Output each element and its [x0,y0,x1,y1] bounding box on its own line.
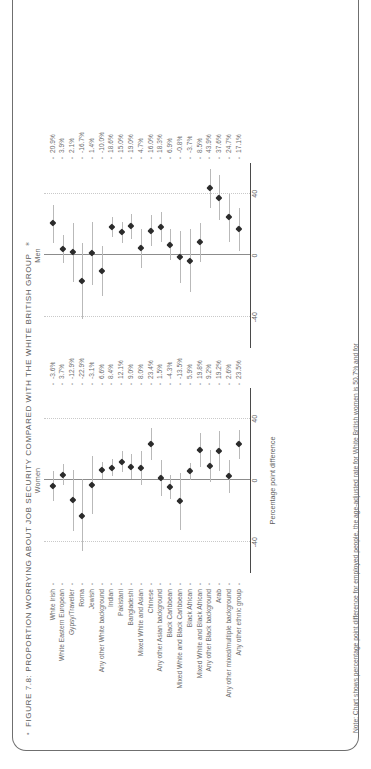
value-label-text: 6.6% [98,364,105,379]
value-leader-dot-icon: • [177,157,183,159]
panel-men: Men -40040 [44,163,280,348]
category-label: Any other Asian background• [157,583,164,672]
value-label-text: -12.9% [68,358,75,379]
value-label: •19.2% [216,360,223,385]
category-leader-dot-icon: • [167,583,173,585]
category-label-column: White Irish•White Eastern European•Gypsy… [44,583,280,733]
category-label-text: Chinese [147,589,154,613]
value-label-text: 43.9% [205,134,212,153]
title-trailing-star-icon: ✶ [24,240,31,247]
value-label-text: 4.7% [137,138,144,153]
category-leader-dot-icon: • [99,583,105,585]
category-label-text: White Eastern European [58,589,65,661]
value-label: •9.2% [206,364,213,385]
value-label-text: 8.0% [137,364,144,379]
value-leader-dot-icon: • [216,383,222,385]
category-label-text: Arab [215,589,222,603]
data-point-marker [186,258,193,265]
title-leading-bullet-icon: • [24,732,31,735]
data-point-marker [108,464,115,471]
data-point-marker [118,458,125,465]
value-leader-dot-icon: • [138,157,144,159]
value-leader-dot-icon: • [226,157,232,159]
category-label-text: Indian [107,589,114,607]
value-leader-dot-icon: • [216,157,222,159]
value-label-text: 9.2% [205,364,212,379]
x-gridline [44,541,250,542]
x-axis-title-women: Percentage point difference [268,388,277,573]
value-label: •37.6% [216,134,223,159]
data-point-marker [167,241,174,248]
value-label: •8.4% [108,364,115,385]
data-point-marker [206,463,213,470]
category-label-text: Mixed White and Black Caribbean [176,589,183,688]
category-label-text: Mixed White and Black African [196,589,203,678]
value-leader-dot-icon: • [108,383,114,385]
value-label-text: 5.9% [186,364,193,379]
category-label-text: Pakistani [117,589,124,616]
category-label-text: Any other ethnic group [235,589,242,655]
category-label-text: Gypsy/Traveller [68,589,75,635]
category-label: Any other Black background• [206,583,213,672]
value-label: •-10.0% [99,132,106,159]
value-column-men: •20.9%•3.9%•2.1%•-16.7%•1.4%•-10.0%•18.6… [44,117,280,159]
x-gridline [44,418,250,419]
category-leader-dot-icon: • [108,583,114,585]
category-leader-dot-icon: • [226,583,232,585]
category-leader-dot-icon: • [118,583,124,585]
data-point-marker [49,482,56,489]
plot-women [44,388,250,573]
category-label-text: Any other mixed/multiple background [225,589,232,698]
value-label-text: 15.0% [117,134,124,153]
category-leader-dot-icon: • [138,583,144,585]
category-label: White Eastern European• [59,583,66,661]
value-label-text: 8.5% [196,138,203,153]
value-label: •16.0% [148,134,155,159]
value-leader-dot-icon: • [89,383,95,385]
value-leader-dot-icon: • [138,383,144,385]
data-point-marker [98,467,105,474]
value-leader-dot-icon: • [177,383,183,385]
value-leader-dot-icon: • [69,157,75,159]
value-leader-dot-icon: • [50,383,56,385]
data-point-marker [147,441,154,448]
data-point-marker [69,497,76,504]
value-label-text: 18.3% [156,134,163,153]
category-leader-dot-icon: • [177,583,183,585]
category-label: Any other mixed/multiple background• [226,583,233,698]
value-leader-dot-icon: • [59,157,65,159]
value-leader-dot-icon: • [148,383,154,385]
figure-note: Note: Chart shows percentage point diffe… [352,343,359,733]
figure-title: •FIGURE 7.8: PROPORTION WORRYING ABOUT J… [24,240,33,735]
category-label: Black Caribbean• [167,583,174,638]
value-leader-dot-icon: • [226,383,232,385]
value-leader-dot-icon: • [79,157,85,159]
category-leader-dot-icon: • [187,583,193,585]
x-axis-tick-label: -40 [251,312,258,322]
value-label: •23.4% [148,360,155,385]
data-point-marker [157,475,164,482]
value-label-text: 8.4% [107,364,114,379]
value-label: •5.9% [187,364,194,385]
x-gridline [44,316,250,317]
category-leader-dot-icon: • [50,583,56,585]
category-label-text: Bangladeshi [127,589,134,625]
value-label: •2.1% [69,138,76,159]
category-label: Mixed White and Black African• [197,583,204,678]
data-point-marker [79,278,86,285]
data-point-marker [49,220,56,227]
data-point-marker [128,463,135,470]
value-label: •-12.9% [69,358,76,385]
value-label: •18.3% [157,134,164,159]
value-leader-dot-icon: • [187,157,193,159]
data-point-marker [196,239,203,246]
data-point-marker [137,245,144,252]
category-label: Any other White background• [99,583,106,672]
category-label-text: Any other White background [98,589,105,672]
value-label: •2.6% [226,364,233,385]
x-axis-tick-label: 40 [251,415,258,423]
value-leader-dot-icon: • [128,157,134,159]
data-point-marker [177,498,184,505]
category-label-text: Black African [186,589,193,627]
x-axis-tick-label: -40 [251,537,258,547]
